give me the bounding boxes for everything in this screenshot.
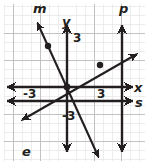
label-line-p: p <box>119 2 128 15</box>
label-line-e: e <box>22 145 31 158</box>
point-origin <box>64 84 71 91</box>
tick-label-y-negative-3: -3 <box>62 110 75 122</box>
label-axis-y: y <box>62 15 70 28</box>
label-line-s: s <box>135 96 143 109</box>
tick-label-x-negative-3: -3 <box>23 88 36 100</box>
label-axis-x: x <box>134 81 142 94</box>
label-line-m: m <box>33 2 47 15</box>
grid-minor <box>4 4 145 161</box>
coordinate-plane-figure: m p y x s e 3 -3 3 -3 <box>0 0 149 164</box>
point-on-m <box>45 43 51 49</box>
grid-major <box>4 4 145 161</box>
tick-label-x-positive-3: 3 <box>97 88 105 100</box>
point-on-e <box>97 62 103 68</box>
tick-label-y-positive-3: 3 <box>73 32 81 44</box>
graph-canvas <box>0 0 149 164</box>
